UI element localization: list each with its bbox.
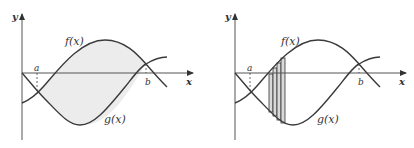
- a-label: a: [247, 63, 252, 73]
- diagram-canvas: y x f(x) g(x) a b y x f(x) g(x) a b: [0, 0, 414, 148]
- strip: [281, 58, 285, 123]
- a-label: a: [34, 63, 39, 73]
- g-label: g(x): [317, 113, 339, 126]
- strip: [273, 68, 277, 116]
- b-label: b: [145, 77, 151, 87]
- f-curve: [235, 40, 380, 103]
- f-label: f(x): [64, 35, 84, 48]
- g-curve: [235, 57, 380, 125]
- x-axis-label: x: [185, 76, 193, 87]
- shaded-area-region: [37, 40, 146, 125]
- x-axis-label: x: [398, 76, 406, 87]
- right-figure: y x f(x) g(x) a b: [224, 11, 406, 140]
- strip: [277, 63, 281, 120]
- b-label: b: [358, 77, 364, 87]
- y-axis-label: y: [224, 11, 232, 22]
- left-figure: y x f(x) g(x) a b: [11, 11, 193, 140]
- y-axis-label: y: [11, 11, 19, 22]
- f-label: f(x): [280, 35, 300, 48]
- g-label: g(x): [104, 113, 126, 126]
- strip: [269, 74, 273, 112]
